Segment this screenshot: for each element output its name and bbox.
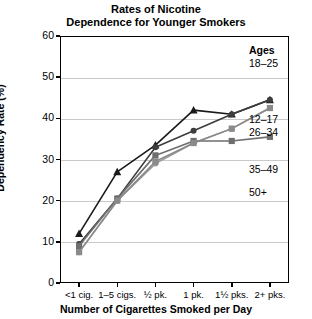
y-axis-label: Dependency Rate (%) xyxy=(0,84,6,191)
y-tick-label: 50 xyxy=(28,70,54,82)
y-tick-label: 0 xyxy=(28,276,54,288)
x-tick-mark xyxy=(78,283,80,287)
x-axis-label: Number of Cigarettes Smoked per Day xyxy=(0,303,312,315)
x-tick-mark xyxy=(155,283,157,287)
y-tick-mark xyxy=(56,76,60,78)
legend-entry-18-25: 18–25 xyxy=(249,57,278,69)
legend-entry-50+: 50+ xyxy=(249,186,267,198)
x-tick-mark xyxy=(193,283,195,287)
plot-area xyxy=(60,36,289,283)
y-tick-label: 20 xyxy=(28,194,54,206)
y-tick-mark xyxy=(56,200,60,202)
y-gridline xyxy=(61,160,288,161)
y-tick-label: 60 xyxy=(28,29,54,41)
chart-figure: Rates of Nicotine Dependence for Younger… xyxy=(0,0,312,319)
legend-entry-12-17: 12–17 xyxy=(249,113,278,125)
x-tick-mark xyxy=(117,283,119,287)
legend-entry-26-34: 26–34 xyxy=(249,126,278,138)
x-tick-mark xyxy=(231,283,233,287)
y-tick-mark xyxy=(56,282,60,284)
y-tick-mark xyxy=(56,241,60,243)
x-tick-label: 2+ pks. xyxy=(240,289,300,300)
chart-title: Rates of Nicotine Dependence for Younger… xyxy=(0,3,312,29)
y-tick-mark xyxy=(56,118,60,120)
y-gridline xyxy=(61,201,288,202)
legend-entry-35-49: 35–49 xyxy=(249,163,278,175)
y-tick-label: 10 xyxy=(28,235,54,247)
y-tick-mark xyxy=(56,159,60,161)
y-tick-mark xyxy=(56,35,60,37)
y-tick-label: 40 xyxy=(28,111,54,123)
legend-title: Ages xyxy=(249,44,275,56)
y-tick-label: 30 xyxy=(28,153,54,165)
y-gridline xyxy=(61,242,288,243)
y-gridline xyxy=(61,78,288,79)
chart-title-line-2: Dependence for Younger Smokers xyxy=(0,16,312,29)
chart-title-line-1: Rates of Nicotine xyxy=(0,3,312,16)
x-tick-mark xyxy=(269,283,271,287)
